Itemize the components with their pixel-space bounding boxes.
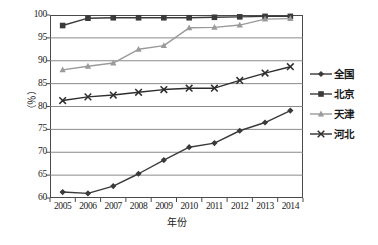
legend-label: 全国 — [332, 69, 354, 80]
y-tick-label: 70 — [21, 147, 47, 157]
series-3 — [60, 15, 294, 72]
legend-label: 天津 — [332, 109, 354, 120]
data-point-diamond — [161, 157, 167, 163]
data-point-triangle — [161, 42, 167, 48]
y-tick-label: 90 — [21, 56, 47, 66]
y-tick-label: 85 — [21, 79, 47, 89]
x-axis-tick-labels: 2005200620072008200920102011201220132014 — [50, 201, 303, 215]
data-point-square — [212, 14, 218, 20]
data-point-diamond — [60, 189, 66, 195]
data-point-square — [186, 15, 192, 21]
data-point-square — [110, 15, 116, 21]
y-tick-label: 80 — [21, 102, 47, 112]
data-point-square — [60, 23, 66, 29]
legend-marker-triangle-icon — [310, 108, 332, 120]
legend-marker-x-icon — [310, 128, 332, 140]
y-tick-label: 95 — [21, 33, 47, 43]
data-point-diamond — [211, 140, 217, 146]
data-point-diamond — [135, 171, 141, 177]
y-tick-label: 75 — [21, 124, 47, 134]
data-point-diamond — [85, 190, 91, 196]
y-tick-label: 65 — [21, 170, 47, 180]
x-tick-label: 2014 — [270, 201, 310, 212]
line-chart: （％） 6065707580859095100 2005200620072008… — [0, 0, 378, 245]
data-point-diamond — [237, 128, 243, 134]
legend-item-北京[interactable]: 北京 — [310, 84, 376, 104]
plot-svg — [50, 15, 303, 198]
plot-area — [50, 15, 303, 198]
legend-item-天津[interactable]: 天津 — [310, 104, 376, 124]
data-point-diamond — [287, 108, 293, 114]
data-point-square — [85, 15, 91, 21]
data-point-square — [136, 15, 142, 21]
data-point-square — [318, 91, 324, 97]
data-point-diamond — [318, 71, 324, 77]
legend-marker-square-icon — [310, 88, 332, 100]
legend-label: 北京 — [332, 89, 354, 100]
y-tick-label: 100 — [21, 10, 47, 20]
legend-label: 河北 — [332, 129, 354, 140]
data-point-square — [161, 15, 167, 21]
legend: 全国北京天津河北 — [310, 64, 376, 144]
legend-marker-diamond-icon — [310, 68, 332, 80]
legend-item-全国[interactable]: 全国 — [310, 64, 376, 84]
data-point-square — [237, 14, 243, 20]
data-point-diamond — [262, 119, 268, 125]
x-axis-title: 年份 — [50, 214, 303, 229]
data-point-diamond — [186, 144, 192, 150]
legend-item-河北[interactable]: 河北 — [310, 124, 376, 144]
series-line — [63, 19, 291, 70]
data-point-diamond — [110, 183, 116, 189]
